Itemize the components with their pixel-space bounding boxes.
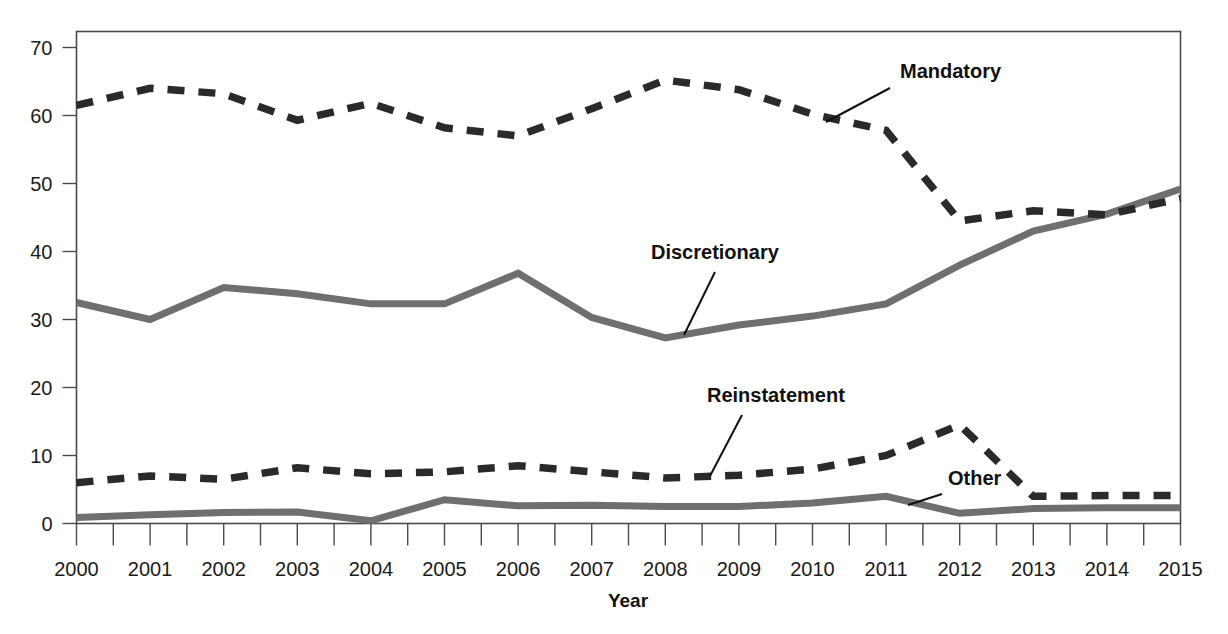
- y-axis-tick-labels: 010203040506070: [30, 37, 52, 535]
- x-tick-label-2000: 2000: [54, 558, 99, 580]
- x-axis-minor-ticks: [113, 524, 1143, 546]
- y-tick-label-40: 40: [30, 241, 52, 263]
- x-tick-label-2005: 2005: [422, 558, 467, 580]
- series-label-other: Other: [948, 467, 1002, 489]
- leader-line-reinstatement: [710, 415, 742, 476]
- series-label-mandatory: Mandatory: [900, 60, 1002, 82]
- series-layer: [77, 80, 1181, 521]
- chart-canvas: 010203040506070 200020012002200320042005…: [0, 0, 1228, 634]
- y-tick-label-10: 10: [30, 445, 52, 467]
- y-axis-ticks: [63, 48, 77, 524]
- y-tick-label-30: 30: [30, 309, 52, 331]
- leader-line-mandatory: [826, 88, 890, 122]
- series-annotations: MandatoryDiscretionaryReinstatementOther: [651, 60, 1002, 505]
- y-tick-label-70: 70: [30, 37, 52, 59]
- y-tick-label-60: 60: [30, 105, 52, 127]
- series-line-mandatory: [77, 80, 1181, 221]
- x-tick-label-2006: 2006: [496, 558, 541, 580]
- x-tick-label-2012: 2012: [937, 558, 982, 580]
- x-tick-label-2014: 2014: [1085, 558, 1130, 580]
- series-line-other: [77, 496, 1181, 520]
- y-tick-label-50: 50: [30, 173, 52, 195]
- plot-frame: [77, 32, 1181, 524]
- x-tick-label-2010: 2010: [790, 558, 835, 580]
- series-line-discretionary: [77, 189, 1181, 338]
- x-tick-label-2011: 2011: [865, 558, 908, 580]
- series-label-discretionary: Discretionary: [651, 241, 780, 263]
- x-tick-label-2004: 2004: [349, 558, 394, 580]
- series-label-reinstatement: Reinstatement: [707, 384, 845, 406]
- x-tick-label-2001: 2001: [128, 558, 173, 580]
- x-axis-tick-labels: 2000200120022003200420052006200720082009…: [54, 558, 1203, 580]
- x-axis-title: Year: [608, 590, 649, 611]
- x-tick-label-2013: 2013: [1011, 558, 1056, 580]
- y-tick-label-0: 0: [41, 513, 52, 535]
- y-tick-label-20: 20: [30, 377, 52, 399]
- series-line-reinstatement: [77, 425, 1181, 496]
- x-tick-label-2007: 2007: [569, 558, 614, 580]
- x-tick-label-2002: 2002: [201, 558, 246, 580]
- line-chart: 010203040506070 200020012002200320042005…: [0, 0, 1228, 634]
- x-tick-label-2008: 2008: [643, 558, 688, 580]
- x-tick-label-2003: 2003: [275, 558, 320, 580]
- x-tick-label-2009: 2009: [717, 558, 762, 580]
- x-tick-label-2015: 2015: [1158, 558, 1203, 580]
- leader-line-discretionary: [684, 272, 715, 335]
